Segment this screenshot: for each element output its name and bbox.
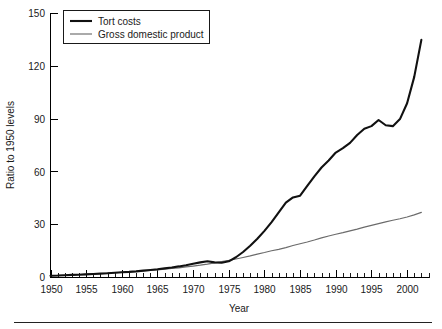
chart-figure: 0 30 60 90 120 150 Ratio to 1950 levels … (0, 0, 442, 329)
x-tick-label-1985: 1985 (289, 284, 312, 295)
y-tick-label-150: 150 (28, 8, 45, 19)
x-tick-label-1960: 1960 (111, 284, 134, 295)
y-tick-label-30: 30 (34, 219, 46, 230)
legend-label-tort-costs: Tort costs (98, 16, 141, 27)
x-tick-label-1990: 1990 (325, 284, 348, 295)
x-tick-label-2000: 2000 (396, 284, 419, 295)
y-axis-title: Ratio to 1950 levels (5, 101, 16, 189)
chart-background (0, 0, 442, 329)
x-tick-label-1980: 1980 (253, 284, 276, 295)
x-axis-tick-labels: 1950195519601965197019751980198519901995… (40, 284, 419, 295)
y-tick-label-0: 0 (39, 272, 45, 283)
x-tick-label-1975: 1975 (218, 284, 241, 295)
chart-legend: Tort costs Gross domestic product (64, 11, 210, 44)
x-axis-title: Year (229, 303, 250, 314)
x-tick-label-1995: 1995 (360, 284, 383, 295)
y-tick-label-60: 60 (34, 167, 46, 178)
x-tick-label-1955: 1955 (75, 284, 98, 295)
y-tick-label-120: 120 (28, 61, 45, 72)
y-tick-label-90: 90 (34, 114, 46, 125)
x-tick-label-1970: 1970 (182, 284, 205, 295)
legend-label-gross-domestic-product: Gross domestic product (98, 29, 204, 40)
line-chart: 0 30 60 90 120 150 Ratio to 1950 levels … (0, 0, 442, 329)
x-tick-label-1950: 1950 (40, 284, 63, 295)
x-tick-label-1965: 1965 (146, 284, 169, 295)
